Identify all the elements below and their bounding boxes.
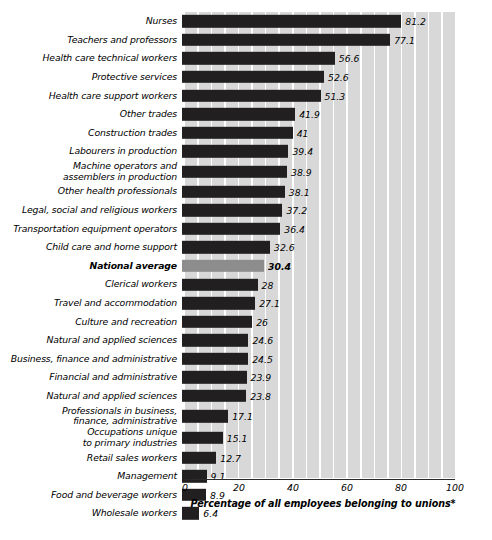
chart-row: Other health professionals38.1 — [0, 182, 492, 201]
bar — [182, 353, 248, 365]
chart-row: Occupations unique to primary industries… — [0, 427, 492, 449]
value-label: 38.1 — [285, 186, 310, 197]
chart-row: Retail sales workers12.7 — [0, 448, 492, 467]
value-label: 24.5 — [248, 353, 273, 364]
category-label: Retail sales workers — [0, 453, 182, 463]
value-label: 36.4 — [280, 223, 305, 234]
bar-track: 81.2 — [182, 12, 492, 31]
bar-track: 56.6 — [182, 49, 492, 68]
chart-row: Labourers in production39.4 — [0, 142, 492, 161]
bar — [182, 451, 216, 463]
bar — [182, 71, 324, 83]
x-axis-line — [185, 479, 455, 480]
chart-row: Nurses81.2 — [0, 12, 492, 31]
chart-row: Teachers and professors77.1 — [0, 31, 492, 50]
value-label: 77.1 — [390, 34, 415, 45]
category-label: Health care technical workers — [0, 53, 182, 63]
bar-track: 30.4 — [182, 257, 492, 276]
category-label: Management — [0, 471, 182, 481]
bar — [182, 223, 280, 235]
category-label: Labourers in production — [0, 146, 182, 156]
bar — [182, 316, 252, 328]
union-membership-bar-chart: Nurses81.2Teachers and professors77.1Hea… — [0, 0, 492, 540]
chart-row: Business, finance and administrative24.5 — [0, 350, 492, 369]
bar — [182, 241, 270, 253]
bar-track: 23.8 — [182, 387, 492, 406]
chart-row: Legal, social and religious workers37.2 — [0, 201, 492, 220]
bar-track: 51.3 — [182, 86, 492, 105]
chart-row: Professionals in business, finance, admi… — [0, 405, 492, 427]
category-label: Financial and administrative — [0, 372, 182, 382]
bar — [182, 15, 401, 27]
bar — [182, 204, 282, 216]
chart-row: Travel and accommodation27.1 — [0, 294, 492, 313]
bar — [182, 185, 285, 197]
category-label: Other health professionals — [0, 186, 182, 196]
chart-row: Machine operators and assemblers in prod… — [0, 161, 492, 183]
value-label: 15.1 — [223, 432, 248, 443]
bar — [182, 278, 258, 290]
bar-track: 24.5 — [182, 350, 492, 369]
chart-row: Health care support workers51.3 — [0, 86, 492, 105]
value-label: 17.1 — [228, 411, 253, 422]
value-label: 51.3 — [321, 90, 346, 101]
value-label: 38.9 — [287, 166, 312, 177]
value-label: 41.9 — [295, 109, 320, 120]
category-label: National average — [0, 261, 182, 271]
chart-row: Culture and recreation26 — [0, 312, 492, 331]
category-label: Clerical workers — [0, 279, 182, 289]
chart-row: Protective services52.6 — [0, 68, 492, 87]
category-label: Other trades — [0, 109, 182, 119]
value-label: 26 — [252, 316, 268, 327]
chart-row-national-average: National average30.4 — [0, 257, 492, 276]
bar — [182, 410, 228, 422]
x-tick-label: 40 — [287, 482, 299, 493]
bar-track: 77.1 — [182, 31, 492, 50]
bar — [182, 127, 293, 139]
value-label: 6.4 — [199, 508, 218, 519]
chart-rows: Nurses81.2Teachers and professors77.1Hea… — [0, 12, 492, 523]
x-tick-label: 100 — [446, 482, 464, 493]
x-axis-tick-labels: 020406080100 — [185, 482, 455, 496]
category-label: Child care and home support — [0, 242, 182, 252]
value-label: 23.9 — [247, 372, 272, 383]
category-label: Legal, social and religious workers — [0, 205, 182, 215]
value-label: 81.2 — [401, 16, 426, 27]
chart-row: Natural and applied sciences24.6 — [0, 331, 492, 350]
bar-track: 38.9 — [182, 161, 492, 183]
bar — [182, 165, 287, 177]
chart-row: Financial and administrative23.9 — [0, 368, 492, 387]
category-label: Travel and accommodation — [0, 298, 182, 308]
bar-track: 52.6 — [182, 68, 492, 87]
chart-row: Natural and applied sciences23.8 — [0, 387, 492, 406]
bar — [182, 507, 199, 519]
value-label: 23.8 — [246, 391, 271, 402]
x-tick-label: 0 — [182, 482, 188, 493]
bar-track: 38.1 — [182, 182, 492, 201]
bar — [182, 334, 248, 346]
value-label: 30.4 — [264, 260, 291, 271]
bar — [182, 470, 207, 482]
chart-row: Other trades41.9 — [0, 105, 492, 124]
category-label: Natural and applied sciences — [0, 391, 182, 401]
bar-track: 27.1 — [182, 294, 492, 313]
category-label: Health care support workers — [0, 91, 182, 101]
value-label: 37.2 — [282, 205, 307, 216]
x-axis-title: Percentage of all employees belonging to… — [185, 498, 461, 509]
category-label: Transportation equipment operators — [0, 224, 182, 234]
bar-track: 32.6 — [182, 238, 492, 257]
bar-track: 15.1 — [182, 427, 492, 449]
bar — [182, 52, 335, 64]
bar-track: 17.1 — [182, 405, 492, 427]
value-label: 24.6 — [248, 335, 273, 346]
value-label: 52.6 — [324, 72, 349, 83]
bar — [182, 260, 264, 272]
bar — [182, 145, 288, 157]
category-label: Occupations unique to primary industries — [0, 427, 182, 447]
bar-track: 26 — [182, 312, 492, 331]
chart-row: Child care and home support32.6 — [0, 238, 492, 257]
category-label: Nurses — [0, 16, 182, 26]
chart-row: Clerical workers28 — [0, 275, 492, 294]
bar — [182, 297, 255, 309]
category-label: Culture and recreation — [0, 317, 182, 327]
